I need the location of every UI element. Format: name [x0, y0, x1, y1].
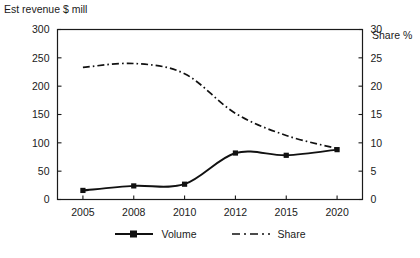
data-point-volume-2005	[80, 188, 85, 193]
right-tick-15: 15	[371, 108, 383, 120]
x-axis-tick-labels: 200520082010201220152020	[71, 206, 349, 218]
right-tick-20: 20	[371, 80, 383, 92]
x-tick-2015: 2015	[275, 206, 299, 218]
x-tick-2010: 2010	[173, 206, 197, 218]
plot-area: 050100150200250300 051015202530 20052008…	[0, 0, 420, 258]
data-point-volume-2015	[284, 153, 289, 158]
x-tick-2008: 2008	[122, 206, 146, 218]
right-tick-5: 5	[371, 165, 377, 177]
right-tick-25: 25	[371, 52, 383, 64]
x-tick-2020: 2020	[325, 206, 349, 218]
x-tick-2012: 2012	[224, 206, 248, 218]
right-axis-tick-labels: 051015202530	[371, 23, 383, 205]
right-tick-30: 30	[371, 23, 383, 35]
axis-tickmarks	[58, 30, 363, 200]
legend-item-share[interactable]: Share	[231, 228, 306, 240]
right-tick-10: 10	[371, 137, 383, 149]
x-tick-2005: 2005	[71, 206, 95, 218]
dash-dot-line-icon	[231, 228, 271, 240]
left-tick-200: 200	[32, 80, 50, 92]
legend-item-volume[interactable]: Volume	[114, 228, 196, 240]
left-tick-100: 100	[32, 137, 50, 149]
left-tick-0: 0	[44, 193, 50, 205]
right-tick-0: 0	[371, 193, 377, 205]
data-point-volume-2012	[233, 150, 238, 155]
series-line-share	[83, 63, 337, 148]
legend-label-volume: Volume	[161, 228, 196, 240]
series-line-volume	[83, 150, 337, 191]
chart-container: Est revenue $ mill Share % 0501001502002…	[0, 0, 420, 258]
plot-frame	[58, 30, 363, 200]
left-tick-50: 50	[38, 165, 50, 177]
left-axis-tick-labels: 050100150200250300	[32, 23, 50, 205]
line-square-marker-icon	[114, 228, 154, 240]
data-point-volume-2010	[182, 182, 187, 187]
chart-legend: Volume Share	[0, 228, 420, 240]
left-tick-250: 250	[32, 52, 50, 64]
legend-label-share: Share	[278, 228, 306, 240]
data-point-volume-2008	[131, 183, 136, 188]
data-point-volume-2020	[334, 147, 339, 152]
left-tick-150: 150	[32, 108, 50, 120]
left-tick-300: 300	[32, 23, 50, 35]
